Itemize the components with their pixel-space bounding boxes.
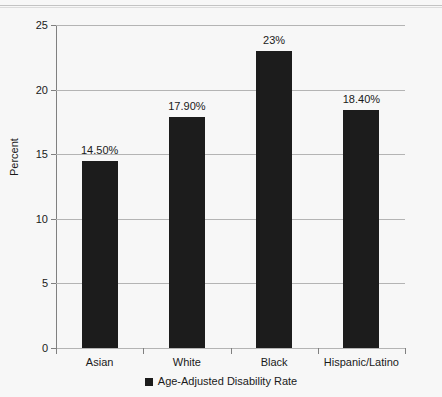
top-divider-rule-secondary	[0, 7, 442, 8]
bar[interactable]	[82, 161, 118, 348]
y-axis-tick-label: 15	[36, 149, 48, 160]
y-axis-tick-label: 20	[36, 84, 48, 95]
bars-group: 14.50%17.90%23%18.40%	[56, 25, 405, 348]
y-axis-title: Percent	[9, 138, 20, 176]
x-axis-separator-tick	[405, 348, 406, 354]
bar[interactable]	[169, 117, 205, 348]
y-axis-tick-label: 0	[42, 343, 48, 354]
bar[interactable]	[256, 51, 292, 348]
bar-value-label: 17.90%	[168, 101, 205, 112]
x-axis-category-label: Asian	[86, 357, 114, 368]
x-axis-category-label: White	[173, 357, 201, 368]
bar-slot: 14.50%	[56, 25, 143, 348]
bar[interactable]	[343, 110, 379, 348]
x-axis-separator-tick	[143, 348, 144, 354]
bar-chart: Percent 0510152025 14.50%17.90%23%18.40%…	[0, 0, 442, 397]
y-axis-tick-label: 10	[36, 213, 48, 224]
bar-value-label: 18.40%	[343, 94, 380, 105]
y-axis-tick-label: 5	[42, 278, 48, 289]
x-axis-category-label: Hispanic/Latino	[324, 357, 399, 368]
x-axis-separator-tick	[56, 348, 57, 354]
top-divider-rule	[0, 5, 442, 6]
legend-swatch-icon	[145, 378, 153, 386]
x-axis-separator-tick	[231, 348, 232, 354]
bar-slot: 18.40%	[318, 25, 405, 348]
x-axis-category-label: Black	[261, 357, 288, 368]
y-axis-tick-label: 25	[36, 20, 48, 31]
x-axis-separator-tick	[318, 348, 319, 354]
bar-slot: 17.90%	[143, 25, 230, 348]
bar-slot: 23%	[231, 25, 318, 348]
chart-legend: Age-Adjusted Disability Rate	[0, 376, 442, 387]
plot-area: 0510152025 14.50%17.90%23%18.40%	[56, 25, 405, 348]
bar-value-label: 23%	[263, 35, 285, 46]
bar-value-label: 14.50%	[81, 145, 118, 156]
legend-label: Age-Adjusted Disability Rate	[158, 376, 297, 387]
